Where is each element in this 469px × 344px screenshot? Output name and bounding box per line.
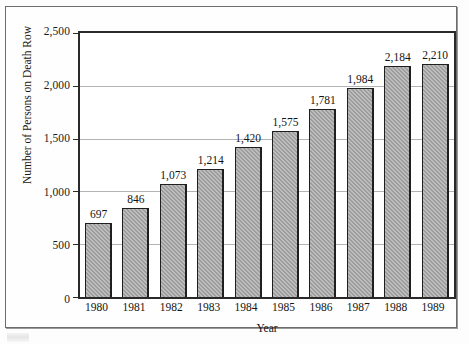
bar-value-1987: 1,984 [339,74,382,86]
y-tick-2000 [73,86,79,87]
bar-value-1981: 846 [114,194,157,206]
x-axis-tick-labels: 1980 1981 1982 1983 1984 1985 1986 1987 … [78,302,456,318]
bar-1987[interactable] [347,88,374,298]
x-axis-title: Year [78,322,456,334]
bar-value-1983: 1,214 [189,155,232,167]
bar-1986[interactable] [309,109,336,297]
y-tick-label: 1,000 [44,187,70,199]
y-axis-title: Number of Persons on Death Row [21,5,33,205]
x-tick-label-1985: 1985 [264,302,303,314]
scan-artifact [7,333,29,342]
bar-value-1985: 1,575 [264,117,307,129]
x-tick-label-1981: 1981 [114,302,153,314]
y-tick-2500 [73,33,79,34]
figure-frame: 2,500 2,000 1,500 1,000 500 0 Number of … [5,6,457,328]
y-tick-1000 [73,191,79,192]
y-tick-label: 2,500 [44,26,70,38]
x-tick-label-1983: 1983 [189,302,228,314]
x-tick-label-1986: 1986 [301,302,340,314]
bar-value-1980: 697 [77,209,120,221]
x-tick-label-1984: 1984 [227,302,266,314]
bar-1985[interactable] [272,131,299,297]
y-tick-label: 2,000 [44,80,70,92]
x-tick-label-1982: 1982 [152,302,191,314]
y-tick-label: 0 [64,294,70,306]
bar-value-1989: 2,210 [414,50,457,62]
x-tick-label-1988: 1988 [376,302,415,314]
y-tick-500 [73,244,79,245]
bar-1988[interactable] [384,66,411,297]
bar-1989[interactable] [422,64,449,297]
bar-value-1986: 1,781 [301,95,344,107]
bar-value-1982: 1,073 [152,170,195,182]
bar-1983[interactable] [197,169,224,297]
bar-1984[interactable] [235,147,262,297]
figure-page: 2,500 2,000 1,500 1,000 500 0 Number of … [0,0,469,344]
y-tick-1500 [73,139,79,140]
x-tick-label-1989: 1989 [414,302,453,314]
y-tick-0 [73,297,79,298]
y-tick-label: 1,500 [44,133,70,145]
x-tick-label-1980: 1980 [77,302,116,314]
plot-area: 697 846 1,073 1,214 1,420 1,575 1,781 1,… [78,31,456,299]
bar-1982[interactable] [160,184,187,297]
bar-1980[interactable] [85,223,112,297]
y-tick-label: 500 [52,240,70,252]
x-tick-label-1987: 1987 [339,302,378,314]
bar-1981[interactable] [122,208,149,297]
bar-value-1984: 1,420 [227,133,270,145]
